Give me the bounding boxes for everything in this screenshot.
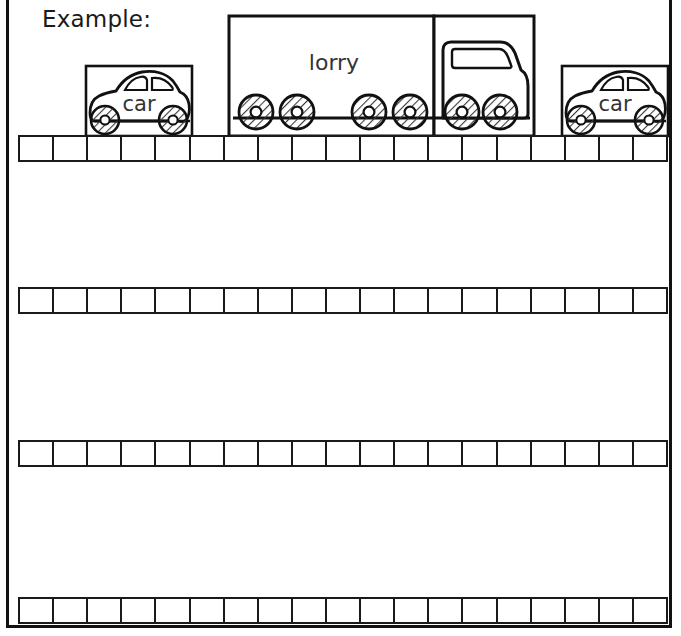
car-right-word: car — [598, 92, 631, 116]
grid-cell[interactable] — [122, 289, 156, 312]
grid-cell[interactable] — [20, 289, 54, 312]
grid-cell[interactable] — [191, 442, 225, 465]
grid-cell[interactable] — [259, 137, 293, 160]
car-left-illustration: car — [86, 66, 192, 136]
grid-cell[interactable] — [122, 599, 156, 622]
grid-cell[interactable] — [156, 289, 190, 312]
grid-cell[interactable] — [395, 599, 429, 622]
grid-cell[interactable] — [225, 599, 259, 622]
grid-cell[interactable] — [54, 599, 88, 622]
grid-cell[interactable] — [600, 442, 634, 465]
grid-cell[interactable] — [532, 137, 566, 160]
grid-cell[interactable] — [463, 137, 497, 160]
grid-cell[interactable] — [225, 289, 259, 312]
grid-cell[interactable] — [327, 599, 361, 622]
grid-cell[interactable] — [156, 442, 190, 465]
grid-cell[interactable] — [54, 442, 88, 465]
grid-cell[interactable] — [259, 289, 293, 312]
grid-cell[interactable] — [361, 289, 395, 312]
grid-cell[interactable] — [634, 137, 666, 160]
grid-cell[interactable] — [566, 137, 600, 160]
grid-cell[interactable] — [88, 289, 122, 312]
grid-cell[interactable] — [361, 599, 395, 622]
grid-cell[interactable] — [498, 599, 532, 622]
grid-cell[interactable] — [20, 599, 54, 622]
grid-cell[interactable] — [429, 599, 463, 622]
grid-cell[interactable] — [634, 442, 666, 465]
grid-cell[interactable] — [88, 442, 122, 465]
grid-cell[interactable] — [191, 289, 225, 312]
grid-cell[interactable] — [532, 442, 566, 465]
grid-cell[interactable] — [122, 137, 156, 160]
grid-cell[interactable] — [293, 599, 327, 622]
grid-cell[interactable] — [498, 289, 532, 312]
grid-cell[interactable] — [54, 289, 88, 312]
grid-cell[interactable] — [429, 442, 463, 465]
grid-cell[interactable] — [20, 442, 54, 465]
grid-cell[interactable] — [259, 599, 293, 622]
grid-cell[interactable] — [566, 599, 600, 622]
grid-cell[interactable] — [54, 137, 88, 160]
grid-cell[interactable] — [259, 442, 293, 465]
grid-row-3[interactable] — [18, 440, 668, 467]
grid-cell[interactable] — [293, 442, 327, 465]
grid-cell[interactable] — [600, 599, 634, 622]
grid-cell[interactable] — [293, 137, 327, 160]
car-left-word: car — [122, 92, 155, 116]
grid-cell[interactable] — [463, 599, 497, 622]
grid-row-2[interactable] — [18, 287, 668, 314]
grid-row-1[interactable] — [18, 135, 668, 162]
grid-cell[interactable] — [293, 289, 327, 312]
grid-cell[interactable] — [600, 137, 634, 160]
grid-cell[interactable] — [156, 137, 190, 160]
grid-cell[interactable] — [122, 442, 156, 465]
grid-cell[interactable] — [498, 442, 532, 465]
grid-cell[interactable] — [156, 599, 190, 622]
grid-cell[interactable] — [463, 289, 497, 312]
grid-cell[interactable] — [463, 442, 497, 465]
vehicle-illustrations: car — [0, 0, 681, 150]
grid-cell[interactable] — [566, 442, 600, 465]
grid-cell[interactable] — [634, 289, 666, 312]
answer-band-1[interactable] — [18, 164, 668, 285]
grid-cell[interactable] — [327, 442, 361, 465]
grid-cell[interactable] — [88, 599, 122, 622]
worksheet-page: Example: — [0, 0, 681, 636]
grid-cell[interactable] — [88, 137, 122, 160]
grid-cell[interactable] — [429, 137, 463, 160]
grid-cell[interactable] — [20, 137, 54, 160]
grid-cell[interactable] — [634, 599, 666, 622]
grid-row-4[interactable] — [18, 597, 668, 624]
grid-cell[interactable] — [395, 137, 429, 160]
lorry-word: lorry — [309, 50, 359, 75]
grid-cell[interactable] — [361, 442, 395, 465]
grid-cell[interactable] — [327, 289, 361, 312]
answer-band-3[interactable] — [18, 468, 668, 595]
grid-cell[interactable] — [532, 289, 566, 312]
grid-cell[interactable] — [429, 289, 463, 312]
grid-cell[interactable] — [327, 137, 361, 160]
grid-cell[interactable] — [191, 137, 225, 160]
answer-band-2[interactable] — [18, 315, 668, 438]
grid-cell[interactable] — [566, 289, 600, 312]
grid-cell[interactable] — [191, 599, 225, 622]
grid-cell[interactable] — [395, 289, 429, 312]
grid-cell[interactable] — [361, 137, 395, 160]
grid-cell[interactable] — [498, 137, 532, 160]
grid-cell[interactable] — [600, 289, 634, 312]
grid-cell[interactable] — [225, 442, 259, 465]
grid-cell[interactable] — [395, 442, 429, 465]
lorry-illustration: lorry — [229, 16, 534, 136]
car-right-illustration: car — [562, 66, 668, 136]
grid-cell[interactable] — [532, 599, 566, 622]
grid-cell[interactable] — [225, 137, 259, 160]
